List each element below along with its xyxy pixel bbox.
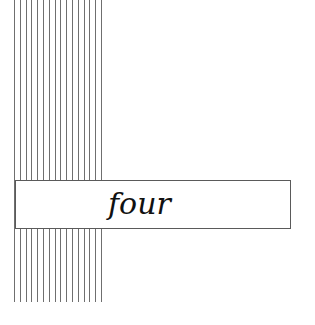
rule-line <box>66 0 67 302</box>
rule-line <box>49 0 50 302</box>
chapter-title: four <box>108 187 171 221</box>
chapter-heading-box: four <box>15 180 291 229</box>
rule-line <box>43 0 44 302</box>
rule-line <box>26 0 27 302</box>
rule-line <box>20 0 21 302</box>
rule-line <box>55 0 56 302</box>
rule-line <box>95 0 96 302</box>
rule-line <box>14 0 15 302</box>
vertical-rule-lines <box>14 0 104 302</box>
rule-line <box>84 0 85 302</box>
rule-line <box>72 0 73 302</box>
rule-line <box>101 0 102 302</box>
rule-line <box>31 0 32 302</box>
rule-line <box>60 0 61 302</box>
rule-line <box>78 0 79 302</box>
rule-line <box>89 0 90 302</box>
rule-line <box>37 0 38 302</box>
